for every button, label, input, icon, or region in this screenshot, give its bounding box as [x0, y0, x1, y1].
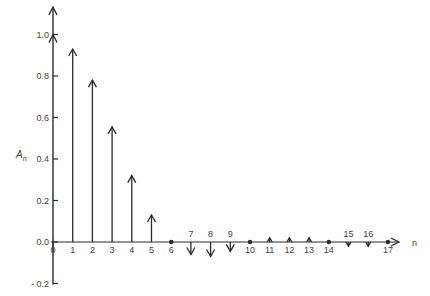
x-tick-label: 12 — [284, 245, 294, 255]
x-tick-label: 10 — [245, 245, 255, 255]
stems — [49, 35, 390, 257]
x-tick-label: 3 — [110, 245, 115, 255]
y-tick-label: 1.0 — [36, 30, 49, 40]
x-tick-label: 4 — [129, 245, 134, 255]
y-tick-label: 0.0 — [36, 237, 49, 247]
x-axis-label: n — [412, 238, 417, 248]
x-tick-label: 1 — [70, 245, 75, 255]
x-tick-label: 7 — [188, 229, 193, 239]
stem-chart: n- 0.20.00.20.40.60.81.0An01234567891011… — [0, 0, 430, 296]
x-tick-label: 8 — [208, 229, 213, 239]
y-axis-label: An — [15, 149, 27, 162]
x-tick-label: 17 — [383, 245, 393, 255]
x-tick-label: 15 — [343, 229, 353, 239]
x-tick-label: 2 — [90, 245, 95, 255]
x-tick-label: 6 — [169, 245, 174, 255]
x-tick-label: 5 — [149, 245, 154, 255]
y-tick-label: 0.6 — [36, 113, 49, 123]
labels: n- 0.20.00.20.40.60.81.0An01234567891011… — [15, 30, 417, 289]
x-tick-label: 13 — [304, 245, 314, 255]
y-tick-label: 0.4 — [36, 154, 49, 164]
x-tick-label: 16 — [363, 229, 373, 239]
y-tick-label: 0.2 — [36, 196, 49, 206]
stem-dot-icon — [386, 240, 390, 244]
x-tick-label: 0 — [50, 245, 55, 255]
stem-dot-icon — [248, 240, 252, 244]
y-tick-label: - 0.2 — [31, 279, 49, 289]
stem-dot-icon — [327, 240, 331, 244]
x-tick-label: 11 — [265, 245, 274, 255]
x-tick-label: 14 — [324, 245, 334, 255]
x-tick-label: 9 — [228, 229, 233, 239]
y-tick-label: 0.8 — [36, 71, 49, 81]
stem-dot-icon — [169, 240, 173, 244]
